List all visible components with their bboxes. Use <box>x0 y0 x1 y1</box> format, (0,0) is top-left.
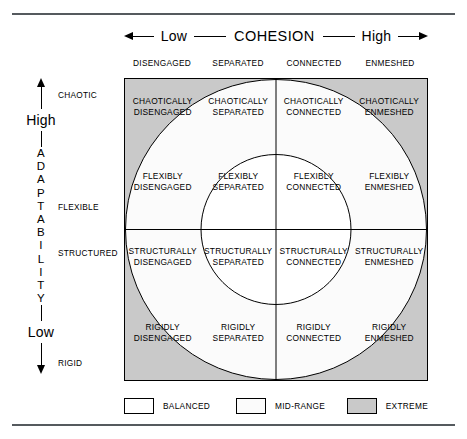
adaptability-letter: A <box>37 147 45 160</box>
adaptability-letter: D <box>37 160 46 173</box>
cell-structurally-separated: STRUCTURALLYSEPARATED <box>201 229 277 285</box>
arrow-up-icon <box>37 78 45 87</box>
arrow-right-icon <box>419 32 428 40</box>
adaptability-letter: I <box>39 266 43 279</box>
adaptability-axis-line-bottom <box>41 343 42 365</box>
cell-line-1: FLEXIBLY <box>134 171 192 182</box>
cell-line-2: DISENGAGED <box>133 107 193 118</box>
cell-line-2: CONNECTED <box>284 107 344 118</box>
cell-line-1: CHAOTICALLY <box>208 96 268 107</box>
cell-line-1: RIGIDLY <box>213 322 264 333</box>
cell-flexibly-disengaged: FLEXIBLYDISENGAGED <box>125 134 201 229</box>
adaptability-letter: T <box>37 200 44 213</box>
cell-flexibly-enmeshed: FLEXIBLYENMESHED <box>352 134 428 229</box>
legend: BALANCED MID-RANGE EXTREME <box>124 396 428 416</box>
cohesion-axis: Low COHESION High <box>124 26 428 46</box>
cell-line-1: STRUCTURALLY <box>204 246 272 257</box>
cell-structurally-enmeshed: STRUCTURALLYENMESHED <box>352 229 428 285</box>
cohesion-low-label: Low <box>154 28 194 44</box>
legend-swatch-mid-range <box>236 398 266 414</box>
adaptability-letter: A <box>37 173 45 186</box>
adaptability-axis-line-lower <box>41 305 42 321</box>
adaptability-axis: High A D A P T A B I L I T Y Low <box>24 78 58 381</box>
cell-line-2: SEPARATED <box>208 107 268 118</box>
cell-line-1: RIGIDLY <box>365 322 414 333</box>
cell-line-2: ENMESHED <box>365 182 414 193</box>
legend-label-balanced: BALANCED <box>163 401 210 411</box>
column-header-separated: SEPARATED <box>200 58 276 72</box>
row-label-structured: STRUCTURED <box>58 248 122 258</box>
cohesion-axis-line-right <box>398 36 419 37</box>
cell-chaotically-connected: CHAOTICALLYCONNECTED <box>276 79 352 134</box>
legend-swatch-extreme <box>347 398 377 414</box>
cell-line-2: DISENGAGED <box>134 182 192 193</box>
row-label-rigid: RIGID <box>58 358 122 368</box>
cell-chaotically-separated: CHAOTICALLYSEPARATED <box>201 79 277 134</box>
cell-rigidly-connected: RIGIDLYCONNECTED <box>276 285 352 380</box>
cell-line-1: RIGIDLY <box>134 322 192 333</box>
cell-line-2: CONNECTED <box>280 257 348 268</box>
legend-label-mid-range: MID-RANGE <box>275 401 325 411</box>
cell-line-1: FLEXIBLY <box>365 171 414 182</box>
row-label-chaotic: CHAOTIC <box>58 90 122 100</box>
legend-swatch-balanced <box>124 398 154 414</box>
adaptability-letter: B <box>37 226 45 239</box>
cell-line-1: FLEXIBLY <box>286 171 341 182</box>
cell-line-1: CHAOTICALLY <box>359 96 419 107</box>
cell-flexibly-separated: FLEXIBLYSEPARATED <box>201 134 277 229</box>
legend-item-extreme: EXTREME <box>347 398 428 414</box>
cohesion-axis-line-left <box>133 36 154 37</box>
column-header-disengaged: DISENGAGED <box>124 58 200 72</box>
cell-line-2: CONNECTED <box>286 182 341 193</box>
row-labels: CHAOTIC FLEXIBLE STRUCTURED RIGID <box>58 78 122 381</box>
cell-rigidly-disengaged: RIGIDLYDISENGAGED <box>125 285 201 380</box>
cell-line-2: SEPARATED <box>213 333 264 344</box>
cell-line-2: CONNECTED <box>286 333 341 344</box>
cell-line-1: FLEXIBLY <box>213 171 264 182</box>
cohesion-axis-line-left-inner <box>194 36 226 37</box>
figure-bottom-rule <box>12 424 455 426</box>
adaptability-letter: T <box>37 279 44 292</box>
adaptability-low-label: Low <box>28 321 54 343</box>
cell-structurally-disengaged: STRUCTURALLYDISENGAGED <box>125 229 201 285</box>
adaptability-high-label: High <box>26 109 56 131</box>
column-header-enmeshed: ENMESHED <box>352 58 428 72</box>
cell-line-2: DISENGAGED <box>134 333 192 344</box>
arrow-left-icon <box>124 32 133 40</box>
cell-line-1: STRUCTURALLY <box>129 246 197 257</box>
cell-structurally-connected: STRUCTURALLYCONNECTED <box>276 229 352 285</box>
adaptability-letter: I <box>39 239 43 252</box>
adaptability-axis-line-top <box>41 87 42 109</box>
legend-item-mid-range: MID-RANGE <box>236 398 325 414</box>
legend-label-extreme: EXTREME <box>386 401 428 411</box>
cell-line-2: DISENGAGED <box>129 257 197 268</box>
column-header-connected: CONNECTED <box>276 58 352 72</box>
cell-line-2: ENMESHED <box>365 333 414 344</box>
adaptability-letter: P <box>37 187 45 200</box>
circumplex-grid: CHAOTICALLYDISENGAGED CHAOTICALLYSEPARAT… <box>124 78 428 381</box>
column-headers: DISENGAGED SEPARATED CONNECTED ENMESHED <box>124 58 428 72</box>
cell-line-2: ENMESHED <box>355 257 423 268</box>
cell-line-2: SEPARATED <box>213 182 264 193</box>
row-label-flexible: FLEXIBLE <box>58 202 122 212</box>
cell-grid: CHAOTICALLYDISENGAGED CHAOTICALLYSEPARAT… <box>125 79 427 380</box>
adaptability-axis-line-upper <box>41 131 42 147</box>
cell-chaotically-enmeshed: CHAOTICALLYENMESHED <box>352 79 428 134</box>
cohesion-title: COHESION <box>226 28 323 44</box>
cohesion-high-label: High <box>355 28 399 44</box>
cohesion-axis-line-right-inner <box>323 36 355 37</box>
cell-line-1: RIGIDLY <box>286 322 341 333</box>
cell-rigidly-enmeshed: RIGIDLYENMESHED <box>352 285 428 380</box>
cell-line-2: ENMESHED <box>359 107 419 118</box>
adaptability-letter: L <box>38 253 45 266</box>
legend-item-balanced: BALANCED <box>124 398 210 414</box>
cell-line-2: SEPARATED <box>204 257 272 268</box>
figure-top-rule <box>12 13 455 15</box>
cell-flexibly-connected: FLEXIBLYCONNECTED <box>276 134 352 229</box>
cell-line-1: CHAOTICALLY <box>133 96 193 107</box>
cell-line-1: STRUCTURALLY <box>280 246 348 257</box>
cell-rigidly-separated: RIGIDLYSEPARATED <box>201 285 277 380</box>
cell-line-1: STRUCTURALLY <box>355 246 423 257</box>
adaptability-title: A D A P T A B I L I T Y <box>37 147 46 305</box>
adaptability-letter: Y <box>37 292 45 305</box>
